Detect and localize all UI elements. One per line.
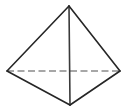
edge-apex-to-front: [69, 6, 70, 105]
tetrahedron-diagram: [0, 0, 127, 111]
geometry-figure-canvas: [0, 0, 127, 111]
tetrahedron-face-fill: [7, 6, 120, 105]
